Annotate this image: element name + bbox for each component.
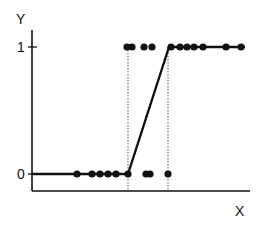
data-point	[190, 43, 197, 50]
data-point	[164, 170, 171, 177]
data-point	[112, 170, 119, 177]
x-axis-label: X	[235, 203, 245, 219]
data-point	[104, 170, 111, 177]
data-point	[73, 170, 80, 177]
data-point	[148, 43, 155, 50]
data-point	[88, 170, 95, 177]
y-tick-label-1: 1	[17, 39, 25, 55]
data-point	[167, 43, 174, 50]
data-point	[183, 43, 190, 50]
fit-line	[32, 47, 245, 174]
data-point	[237, 43, 244, 50]
data-point	[176, 43, 183, 50]
data-point	[199, 43, 206, 50]
chart: Y 1 0 X	[0, 0, 260, 225]
data-point	[96, 170, 103, 177]
data-point	[140, 43, 147, 50]
data-point	[222, 43, 229, 50]
y-axis-label: Y	[16, 11, 26, 27]
data-point	[124, 170, 131, 177]
data-point	[146, 170, 153, 177]
data-points	[73, 43, 244, 177]
data-point	[128, 43, 135, 50]
y-tick-label-0: 0	[17, 166, 25, 182]
